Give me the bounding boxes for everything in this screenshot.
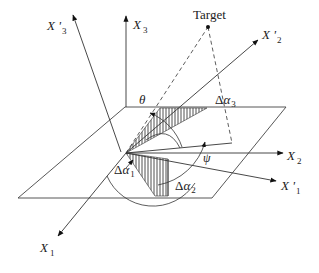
x2p-label: X '2 xyxy=(261,27,281,45)
x2-label: X2 xyxy=(286,148,301,166)
x3-label: X3 xyxy=(132,17,148,35)
x3p-label: X '3 xyxy=(46,18,67,36)
x3p-axis xyxy=(73,15,121,152)
da2-label: Δα2 xyxy=(175,178,196,195)
x2p-axis xyxy=(126,40,258,153)
theta-label: θ xyxy=(139,92,146,107)
x1-label: X1 xyxy=(39,240,54,258)
target-drop-dashed xyxy=(208,27,232,143)
diagram-canvas: Target X3 X '3 X '2 X2 X '1 X1 θ ψ Δα3 Δ… xyxy=(0,0,319,273)
target-point xyxy=(206,25,210,29)
target-label: Target xyxy=(193,7,226,22)
da1-label: Δα1 xyxy=(114,162,135,179)
da3-label: Δα3 xyxy=(215,92,236,109)
x1p-label: X '1 xyxy=(280,178,300,196)
psi-label: ψ xyxy=(203,151,211,165)
